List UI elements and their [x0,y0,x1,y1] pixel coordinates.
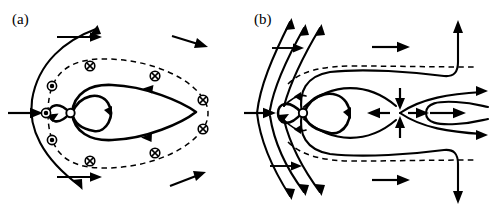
inner-closed-field-line-a [72,85,196,142]
nightside-dipole-loop-b [304,94,351,134]
circle-cross-symbol [150,148,160,158]
open-field-line-b-5-head [299,184,309,196]
reconnected-field-line-b-upper [301,26,458,113]
open-field-line-b-4-head [285,188,295,200]
solar-wind-arrow-a-top-head [194,38,208,48]
plasmoid-interior-arrow-head-b [453,108,466,118]
x-point-inflow-arrow-top-head-b [395,98,405,110]
cusp-inner-loop-b-upper-head [294,92,301,101]
reconnected-field-line-b-lower-head [453,191,463,204]
separatrix-b-upper-left [304,88,396,107]
solar-wind-arrow-a-bottom [170,171,206,186]
magnetopause-dashed-upper-b [288,66,476,84]
earth-b [299,109,307,117]
circle-cross-symbol [150,71,160,81]
circle-dot-symbol [47,135,56,144]
separatrix-b-upper-right-head [476,86,488,96]
x-point-inflow-arrow-bottom-head-b [395,116,405,128]
nightside-dipole-loop-a [72,96,112,131]
x-point-outflow-arrows-b [367,108,429,118]
open-field-line-b-3-head [315,24,325,36]
nightside-dipole-loop-b-arrowhead [343,107,351,119]
outer-field-line-a-arrowhead-bottom [72,179,83,190]
circle-cross-symbol [198,124,208,134]
magnetopause-dashed-lower-b [288,142,476,161]
figure-container: (a) [0,0,489,212]
separatrix-b-lower-right-head [476,130,488,140]
circle-dot-symbol [47,81,56,90]
circle-cross-symbols-a [85,61,208,166]
panel-b: (b) [244,0,489,212]
nightside-dipole-loop-b-path [304,94,350,134]
open-field-line-b-6-head [315,184,325,196]
panel-a-label: (a) [12,11,29,28]
solar-wind-arrow-b-top [372,42,410,52]
inner-closed-line-a-arrowhead-upper [143,85,154,94]
crossing-arrow-a-bottom-head [90,172,102,181]
circle-cross-symbol [85,61,95,71]
circle-dot-symbols-a [41,81,56,144]
solar-wind-arrow-a-bottom-head [193,171,206,181]
reconnected-field-line-b-upper-head [453,20,463,33]
panel-b-label: (b) [254,11,272,28]
panel-a: (a) [0,0,245,212]
plasmoid-loop-b [426,102,488,124]
open-field-line-b-1-head [285,18,295,30]
open-field-line-b-2-head [299,24,309,36]
cusp-inner-loop-b-lower-head [294,125,301,134]
circle-dot-symbol [41,108,50,117]
earth-a [66,109,74,117]
nightside-dipole-loop-a-arrowhead [104,106,112,117]
circle-cross-symbol [85,156,95,166]
x-point-outflow-arrow-left-head-b [367,108,380,118]
inner-closed-field-line-a-path [72,85,196,140]
solar-wind-arrow-a-top [172,36,208,48]
circle-cross-symbol [198,95,208,105]
separatrix-b-lower-left [304,119,396,138]
solar-wind-arrow-b-bottom-head [397,175,410,185]
solar-wind-arrow-b-top-head [397,42,410,52]
outer-field-line-a-lower [72,179,83,190]
solar-wind-arrow-b-bottom [372,175,410,185]
cusp-crossing-arrow-b-top-head [293,44,304,53]
subsolar-inflow-arrow-a [8,108,43,118]
subsolar-inflow-arrow-b [244,108,276,118]
